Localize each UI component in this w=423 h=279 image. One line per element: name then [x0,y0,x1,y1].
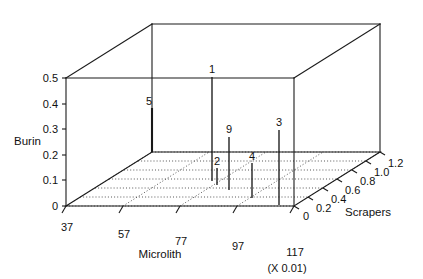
x-tick-4 [290,206,294,213]
plot-svg: 0 0.1 0.2 0.3 0.4 0.5 37 57 77 97 117 [0,0,423,279]
x-tick-label-2: 77 [175,235,187,247]
x-axis-title-microlith: Microlith [139,248,182,260]
z-tick-label-4: 0.8 [360,175,375,187]
spike-label-9: 9 [226,123,232,135]
x-tick-0 [62,206,66,213]
spike-9: 9 [226,123,232,190]
y-tick-label-4: 0.4 [43,98,58,110]
x-tick-label-4: 117 [286,246,304,258]
z-tick-label-0: 0 [303,210,309,222]
y-tick-label-1: 0.1 [43,174,58,186]
x-tick-label-0: 37 [61,221,73,233]
y-tick-label-5: 0.5 [43,72,58,84]
z-tick-2 [323,188,328,191]
spike-label-1: 1 [209,63,215,75]
data-spikes: 5 1 2 9 4 [146,63,282,205]
z-tick-0 [294,206,299,209]
y-tick-label-0: 0 [52,200,58,212]
top-edge-right [294,24,380,78]
x-tick-label-3: 97 [232,240,244,252]
spike-label-4: 4 [249,150,255,162]
spike-label-5: 5 [146,95,152,107]
spike-5: 5 [146,95,152,152]
x-tick-3 [233,206,237,213]
y-axis-title-burin: Burin [14,135,41,147]
z-tick-label-2: 0.4 [331,193,346,205]
z-tick-6 [380,152,385,155]
x-tick-1 [119,206,123,213]
top-edge-left [66,24,152,78]
y-tick-label-3: 0.3 [43,123,58,135]
x-tick-2 [176,206,180,213]
z-tick-5 [366,161,371,164]
spike-3: 3 [276,116,282,205]
x-axis-scale-note: (X 0.01) [267,262,306,274]
y-axis-ticks: 0 0.1 0.2 0.3 0.4 0.5 [43,72,66,212]
z-tick-label-5: 1.0 [374,166,389,178]
z-tick-label-1: 0.2 [316,202,331,214]
z-tick-1 [308,197,313,200]
z-tick-3 [337,179,342,182]
spike-4: 4 [249,150,255,198]
z-tick-label-6: 1.2 [388,157,403,169]
x-axis-ticks: 37 57 77 97 117 [61,206,304,258]
z-tick-label-3: 0.6 [345,184,360,196]
y-tick-label-2: 0.2 [43,149,58,161]
spike-label-2: 2 [214,155,220,167]
x-tick-label-1: 57 [118,228,130,240]
spike-label-3: 3 [276,116,282,128]
chart-3d-spike-plot: 0 0.1 0.2 0.3 0.4 0.5 37 57 77 97 117 [0,0,423,279]
z-axis-title-scrapers: Scrapers [345,206,391,218]
z-tick-4 [352,170,357,173]
